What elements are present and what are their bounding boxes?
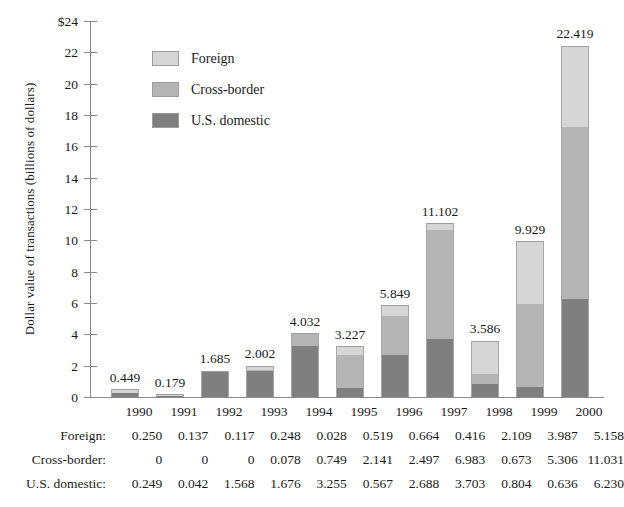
table-cell: 0.249 [116,472,162,496]
bar-total-label: 3.227 [322,328,378,342]
bar-total-label: 4.032 [277,315,333,329]
bar-segment-foreign [471,341,499,374]
bar-segment-u-s-domestic [336,388,364,397]
table-cell: 0.250 [116,424,162,448]
bar-stack [291,333,319,397]
table-cell: 3.987 [532,424,578,448]
bar-segment-u-s-domestic [516,387,544,397]
chart-legend: ForeignCross-borderU.S. domestic [152,43,270,136]
bar-total-label: 0.179 [142,376,198,390]
data-value-table: Foreign:0.2500.1370.1170.2480.0280.5190.… [0,424,624,496]
bar-total-label: 11.102 [412,205,468,219]
table-cell: 0.804 [485,472,531,496]
legend-item[interactable]: U.S. domestic [152,105,270,136]
y-tick-mark [84,334,97,335]
bar-stack [471,341,499,397]
bar-total-label: 3.586 [457,322,513,336]
bar-segment-u-s-domestic [246,371,274,397]
legend-swatch-icon [152,113,179,128]
bar-segment-u-s-domestic [156,396,184,397]
table-row: U.S. domestic:0.2490.0421.5681.6763.2550… [0,472,624,496]
bar-stack [201,371,229,397]
table-row-label: Cross-border: [0,448,116,472]
table-row: Foreign:0.2500.1370.1170.2480.0280.5190.… [0,424,624,448]
y-tick-label: 18 [30,109,78,123]
table-cell: 0.673 [485,448,531,472]
bar-total-label: 2.002 [232,347,288,361]
y-tick-mark [84,115,97,116]
legend-item[interactable]: Cross-border [152,74,270,105]
table-row-label: U.S. domestic: [0,472,116,496]
bar-segment-u-s-domestic [111,393,139,397]
bar-stack [336,346,364,397]
bar-total-label: 5.849 [367,287,423,301]
bar-segment-u-s-domestic [291,346,319,397]
bar-segment-u-s-domestic [561,299,589,397]
table-cell: 0.248 [254,424,300,448]
bar-stack [561,46,589,397]
bar-stack [246,366,274,397]
y-tick-label: 14 [30,172,78,186]
legend-swatch-icon [152,51,179,66]
y-tick-mark [84,146,97,147]
y-tick-label: 6 [30,297,78,311]
bar-segment-cross-border [471,374,499,385]
legend-label: U.S. domestic [191,114,270,128]
bar-stack [156,394,184,397]
bar-stack [516,241,544,397]
x-axis-line [90,397,604,398]
table-cell: 0 [162,448,208,472]
table-cell: 0.749 [301,448,347,472]
y-tick-mark [84,84,97,85]
table-row: Cross-border:0000.0780.7492.1412.4976.98… [0,448,624,472]
y-tick-label: $24 [30,15,78,29]
table-cell: 2.141 [347,448,393,472]
table-cell: 1.568 [208,472,254,496]
bar-segment-cross-border [516,304,544,387]
y-tick-mark [84,397,97,398]
y-tick-mark [84,209,97,210]
legend-item[interactable]: Foreign [152,43,270,74]
y-tick-label: 8 [30,266,78,280]
y-tick-label: 16 [30,140,78,154]
bar-segment-foreign [381,305,409,315]
y-tick-label: 0 [30,391,78,405]
stacked-bar-chart-figure: Dollar value of transactions (billions o… [0,0,624,507]
legend-label: Cross-border [191,83,264,97]
table-cell: 0.137 [162,424,208,448]
y-tick-mark [84,178,97,179]
table-cell: 5.158 [578,424,624,448]
table-cell: 0.078 [254,448,300,472]
bar-segment-cross-border [561,127,589,300]
y-tick-mark [84,240,97,241]
legend-swatch-icon [152,82,179,97]
table-row-label: Foreign: [0,424,116,448]
table-cell: 0.567 [347,472,393,496]
bar-stack [381,305,409,397]
bar-segment-u-s-domestic [201,372,229,397]
bar-segment-u-s-domestic [381,355,409,397]
bar-segment-cross-border [426,230,454,339]
table-cell: 2.109 [485,424,531,448]
table-cell: 0.519 [347,424,393,448]
table-cell: 0 [208,448,254,472]
legend-label: Foreign [191,52,235,66]
table-cell: 3.703 [439,472,485,496]
x-axis-label: 2000 [561,405,617,419]
y-tick-label: 20 [30,78,78,92]
bar-segment-foreign [561,46,589,127]
y-tick-mark [84,366,97,367]
table-cell: 6.983 [439,448,485,472]
table-cell: 0.117 [208,424,254,448]
table-cell: 6.230 [578,472,624,496]
bar-total-label: 22.419 [547,27,603,41]
y-tick-label: 12 [30,203,78,217]
table-cell: 0.636 [532,472,578,496]
bar-segment-cross-border [291,334,319,346]
table-cell: 1.676 [254,472,300,496]
y-tick-mark [84,52,97,53]
table-cell: 2.497 [393,448,439,472]
bar-stack [111,389,139,397]
bar-stack [426,223,454,397]
table-cell: 0.042 [162,472,208,496]
